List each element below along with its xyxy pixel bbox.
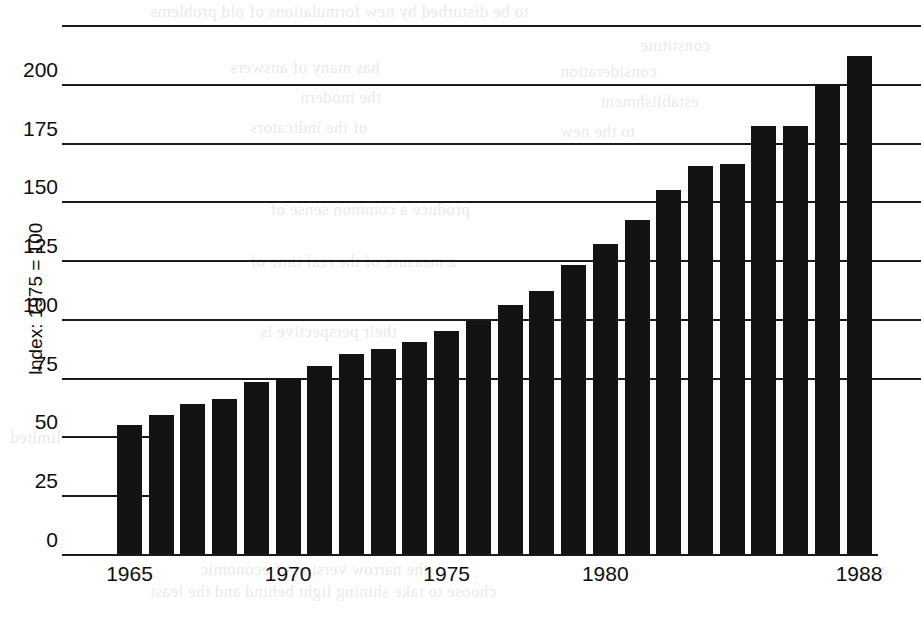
bar-1983 xyxy=(688,166,713,554)
bar-1984 xyxy=(720,164,745,554)
bar-1976 xyxy=(466,321,491,554)
bar-1970 xyxy=(276,378,301,554)
bar-1980 xyxy=(593,244,618,554)
bar-1969 xyxy=(244,382,269,554)
bar-1978 xyxy=(529,291,554,554)
bar-1979 xyxy=(561,265,586,554)
x-tick-label-1980: 1980 xyxy=(560,562,650,586)
bar-1967 xyxy=(180,404,205,554)
plot-area xyxy=(0,0,921,624)
bar-1975 xyxy=(434,331,459,554)
bar-1966 xyxy=(149,415,174,554)
bar-1971 xyxy=(307,366,332,554)
bar-1982 xyxy=(656,190,681,554)
bar-1981 xyxy=(625,220,650,554)
bar-1977 xyxy=(498,305,523,554)
x-tick-label-1970: 1970 xyxy=(243,562,333,586)
bar-1974 xyxy=(402,342,427,554)
bar-1965 xyxy=(117,425,142,554)
x-tick-label-1965: 1965 xyxy=(85,562,175,586)
bar-chart: Index: 1975 = 100 0255075100125150175200… xyxy=(0,0,921,624)
bar-1973 xyxy=(371,349,396,554)
bar-1985 xyxy=(751,126,776,554)
bar-1988 xyxy=(847,56,872,554)
bar-1972 xyxy=(339,354,364,554)
bar-1987 xyxy=(815,84,840,554)
bar-1968 xyxy=(212,399,237,554)
x-tick-label-1988: 1988 xyxy=(814,562,904,586)
bar-1986 xyxy=(783,126,808,554)
x-tick-label-1975: 1975 xyxy=(402,562,492,586)
